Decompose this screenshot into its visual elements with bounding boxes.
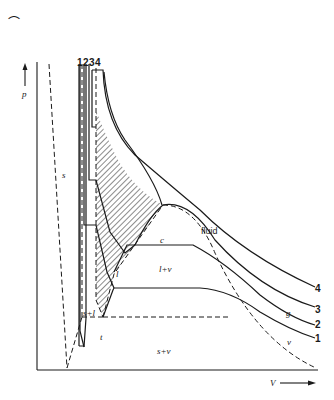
- fluid-label: fluid: [201, 226, 218, 236]
- solid-vapour-label: s+v: [157, 346, 171, 356]
- svg-text:4: 4: [95, 57, 101, 68]
- v-axis-label: V: [270, 378, 316, 388]
- solid-label: s: [62, 170, 66, 180]
- p-axis-label: p: [21, 63, 28, 99]
- liquid-label: l: [116, 269, 119, 279]
- solid-boundaries: [49, 64, 103, 368]
- liquid-vapour-label: l+v: [159, 264, 172, 274]
- svg-text:3: 3: [315, 304, 321, 315]
- isotherm-top-labels: 1 2 3 4: [77, 57, 101, 68]
- solid-liquid-label: s+l: [83, 308, 96, 318]
- svg-text:1: 1: [315, 333, 321, 344]
- liquid-region-hatch: [96, 110, 163, 317]
- svg-text:2: 2: [315, 319, 321, 330]
- arrow-up-icon: [23, 63, 28, 70]
- isotherm-right-labels: 4 3 2 1: [315, 283, 321, 344]
- gas-label: g: [286, 308, 291, 318]
- vapour-label: v: [287, 337, 291, 347]
- svg-text:4: 4: [315, 283, 321, 294]
- arrow-right-icon: [308, 381, 316, 386]
- corner-mark: ⌒: [8, 16, 20, 30]
- triple-point-label: t: [100, 332, 103, 342]
- svg-text:V: V: [270, 378, 277, 388]
- critical-point-label: c: [160, 235, 164, 245]
- phase-diagram: ⌒ p V: [0, 0, 334, 400]
- isotherm-4: [92, 70, 96, 127]
- svg-text:p: p: [21, 89, 27, 99]
